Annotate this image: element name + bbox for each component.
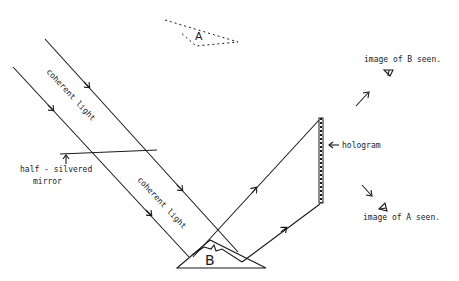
hologram-plate — [319, 118, 323, 203]
virtual-object-A: A — [165, 20, 238, 46]
mirror-label-line2: mirror — [33, 177, 62, 186]
hologram-label: hologram — [342, 141, 381, 150]
incident-beam-upper — [45, 39, 238, 252]
half-silvered-mirror — [60, 150, 157, 154]
incident-beam-lower — [13, 67, 189, 257]
image-of-a-label: image of A seen. — [363, 213, 440, 222]
holography-diagram: B hologram A coherent light coherent lig… — [0, 0, 459, 281]
virtual-a-label: A — [195, 30, 203, 43]
reflected-beam-1 — [193, 119, 320, 257]
viewing-direction-arrow-b — [356, 92, 369, 106]
eye-icon-b — [384, 70, 393, 76]
mirror-pointer-arrow — [63, 155, 69, 164]
viewing-direction-arrow-a — [362, 185, 372, 196]
reflected-beam-2 — [242, 204, 320, 262]
mirror-label-line1: half - silvered — [20, 165, 92, 174]
coherent-light-label-2: coherent light — [136, 175, 189, 231]
eye-icon-a — [379, 203, 387, 211]
image-of-b-label: image of B seen. — [364, 55, 441, 64]
coherent-light-label-1: coherent light — [45, 67, 98, 123]
object-b-label: B — [205, 252, 215, 268]
hologram-pointer-arrow — [329, 142, 339, 148]
